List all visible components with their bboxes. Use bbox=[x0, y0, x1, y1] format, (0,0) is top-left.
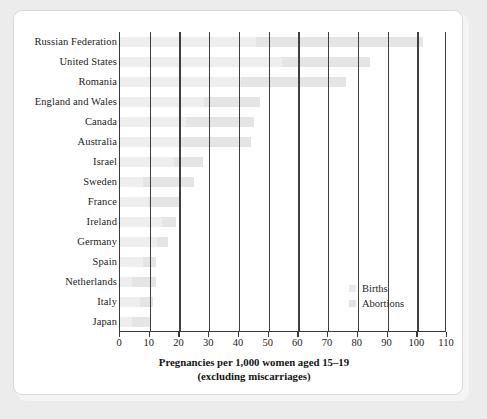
chart-card: Russian FederationUnited StatesRomaniaEn… bbox=[13, 10, 463, 395]
x-axis-tick-label: 50 bbox=[262, 337, 273, 348]
bar-segment-abortions bbox=[256, 37, 424, 47]
bar-segment-births bbox=[120, 77, 241, 87]
bar-row bbox=[120, 257, 447, 267]
bar-row bbox=[120, 317, 447, 327]
bar-row bbox=[120, 117, 447, 127]
plot-area: BirthsAbortions bbox=[119, 32, 446, 332]
x-axis-tick-label: 0 bbox=[116, 337, 121, 348]
bar-row bbox=[120, 77, 447, 87]
bar-row bbox=[120, 137, 447, 147]
bar-segment-births bbox=[120, 97, 204, 107]
x-axis-tick-label: 20 bbox=[173, 337, 184, 348]
bar-segment-abortions bbox=[186, 117, 253, 127]
bar-segment-abortions bbox=[174, 157, 204, 167]
y-axis-label: Netherlands bbox=[22, 276, 117, 288]
y-axis-label: France bbox=[22, 196, 117, 208]
bar-segment-births bbox=[120, 277, 132, 287]
legend-item: Abortions bbox=[349, 296, 404, 310]
legend-label: Abortions bbox=[362, 298, 404, 309]
y-axis-label: United States bbox=[22, 56, 117, 68]
bar-row bbox=[120, 217, 447, 227]
bar-row bbox=[120, 157, 447, 167]
bar-row bbox=[120, 57, 447, 67]
bar-segment-abortions bbox=[140, 297, 153, 307]
legend-swatch-icon bbox=[349, 300, 356, 307]
bar-segment-births bbox=[120, 317, 132, 327]
x-axis-tick-label: 90 bbox=[381, 337, 392, 348]
x-axis-tick-label: 80 bbox=[352, 337, 363, 348]
x-axis-tick-label: 70 bbox=[322, 337, 333, 348]
bar-segment-abortions bbox=[241, 77, 346, 87]
y-axis-label: Israel bbox=[22, 156, 117, 168]
bar-segment-births bbox=[120, 297, 140, 307]
chart-figure: Russian FederationUnited StatesRomaniaEn… bbox=[14, 11, 464, 396]
x-axis-tick-label: 110 bbox=[438, 337, 453, 348]
bar-segment-births bbox=[120, 157, 174, 167]
legend-label: Births bbox=[362, 283, 388, 294]
y-axis-label: Canada bbox=[22, 116, 117, 128]
bar-segment-births bbox=[120, 217, 162, 227]
y-axis-label: England and Wales bbox=[22, 96, 117, 108]
y-axis-label: Australia bbox=[22, 136, 117, 148]
bar-row bbox=[120, 237, 447, 247]
y-axis-label: Spain bbox=[22, 256, 117, 268]
x-axis-tick-label: 100 bbox=[408, 337, 424, 348]
legend-swatch-icon bbox=[349, 285, 356, 292]
y-axis-label: Russian Federation bbox=[22, 36, 117, 48]
bar-segment-births bbox=[120, 37, 256, 47]
bar-segment-abortions bbox=[157, 237, 167, 247]
bar-segment-abortions bbox=[143, 177, 194, 187]
bar-row bbox=[120, 197, 447, 207]
bar-segment-births bbox=[120, 137, 180, 147]
x-axis-tick-label: 60 bbox=[292, 337, 303, 348]
chart-legend: BirthsAbortions bbox=[349, 281, 404, 311]
bar-segment-abortions bbox=[204, 97, 259, 107]
x-axis-tick-label: 10 bbox=[143, 337, 154, 348]
bar-segment-abortions bbox=[162, 217, 176, 227]
legend-item: Births bbox=[349, 281, 404, 295]
x-axis-tick-labels: 0102030405060708090100110 bbox=[119, 337, 446, 353]
y-axis-label: Japan bbox=[22, 316, 117, 328]
y-axis-label: Romania bbox=[22, 76, 117, 88]
y-axis-label: Ireland bbox=[22, 216, 117, 228]
bar-row bbox=[120, 37, 447, 47]
bar-segment-births bbox=[120, 117, 186, 127]
x-axis-tick-label: 30 bbox=[203, 337, 214, 348]
bar-segment-births bbox=[120, 197, 148, 207]
bar-segment-abortions bbox=[132, 277, 155, 287]
x-axis-title-line2: (excluding miscarriages) bbox=[74, 370, 434, 384]
bar-segment-abortions bbox=[282, 57, 370, 67]
bar-segment-abortions bbox=[148, 197, 180, 207]
bar-segment-abortions bbox=[180, 137, 251, 147]
bar-row bbox=[120, 177, 447, 187]
x-axis-title: Pregnancies per 1,000 women aged 15–19 (… bbox=[74, 356, 434, 383]
y-axis-label: Italy bbox=[22, 296, 117, 308]
x-axis-title-line1: Pregnancies per 1,000 women aged 15–19 bbox=[74, 356, 434, 370]
x-axis-tick-label: 40 bbox=[233, 337, 244, 348]
bar-segment-births bbox=[120, 237, 157, 247]
y-axis-labels: Russian FederationUnited StatesRomaniaEn… bbox=[22, 32, 117, 332]
bar-segment-abortions bbox=[132, 317, 152, 327]
y-axis-label: Germany bbox=[22, 236, 117, 248]
bar-segment-births bbox=[120, 257, 143, 267]
bar-row bbox=[120, 97, 447, 107]
bar-segment-abortions bbox=[143, 257, 155, 267]
y-axis-label: Sweden bbox=[22, 176, 117, 188]
screenshot-root: Russian FederationUnited StatesRomaniaEn… bbox=[0, 0, 487, 419]
bar-segment-births bbox=[120, 57, 282, 67]
bar-segment-births bbox=[120, 177, 143, 187]
